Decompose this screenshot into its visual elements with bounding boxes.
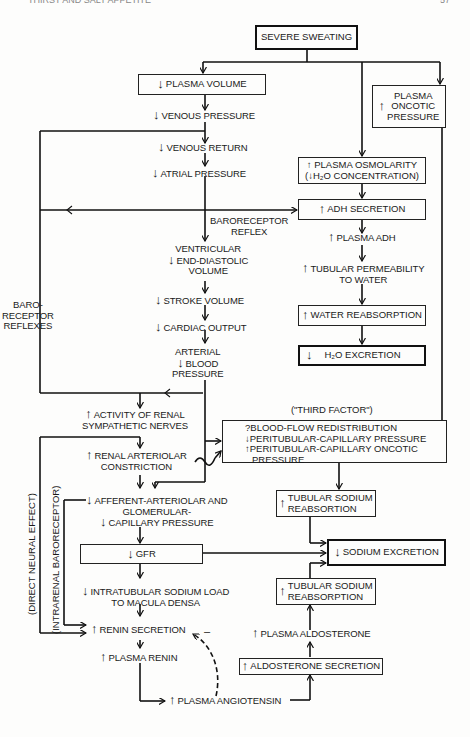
down-arrow-icon: ↓ [86,492,92,507]
up-arrow-icon: ↑ [242,661,249,672]
third-factor-list: ?BLOOD-FLOW REDISTRIBUTION ↓PERITUBULAR-… [245,423,426,465]
up-arrow-icon: ↑ [319,204,326,215]
h2o-excretion-box: ↓H₂O EXCRETION [298,345,426,366]
up-arrow-icon: ↑ [279,498,286,509]
severe-sweating-label: SEVERE SWEATING [261,32,352,43]
down-arrow-icon: ↓ [168,252,174,267]
up-arrow-icon: ↑ [379,101,386,112]
severe-sweating-box: SEVERE SWEATING [255,25,358,50]
third-factor-title: ("THIRD FACTOR") [291,405,373,416]
renal-arteriolar: ↑RENAL ARTERIOLARCONSTRICTION [86,450,187,472]
down-arrow-icon: ↓ [334,547,341,558]
down-arrow-icon: ↓ [153,107,159,122]
down-arrow-icon: ↓ [158,139,164,154]
plasma-aldosterone: ↑PLASMA ALDOSTERONE [252,628,371,640]
up-arrow-icon: ↑ [302,310,309,321]
afferent-arteriolar: ↓AFFERENT-ARTERIOLAR ANDGLOMERULAR-↓CAPI… [86,495,228,529]
water-reabsorption-box: ↑WATER REABSORPTION [298,305,426,326]
tubular-sodium-reab-1-box: ↑TUBULAR SODIUMREABSORTION [276,490,376,517]
third-factor-box: ?BLOOD-FLOW REDISTRIBUTION ↓PERITUBULAR-… [222,420,447,463]
adh-secretion-box: ↑ADH SECRETION [298,199,426,220]
down-arrow-icon: ↓ [155,292,161,307]
tubular-sodium-reab-2-box: ↑TUBULAR SODIUMREABSORPTION [276,578,376,605]
sodium-excretion-box: ↓SODIUM EXCRETION [327,539,446,566]
plasma-osmolarity-box: ↑ PLASMA OSMOLARITY(↓H₂O CONCENTRATION) [298,157,426,184]
up-arrow-icon: ↑ [302,260,308,275]
arterial-bp: ARTERIAL↓BLOODPRESSURE [172,347,223,380]
direct-neural-effect-label: (DIRECT NEURAL EFFECT) [26,493,37,615]
cardiac-output: ↓CARDIAC OUTPUT [155,322,246,334]
renal-sympathetic: ↑ACTIVITY OF RENALSYMPATHETIC NERVES [82,409,188,431]
down-arrow-icon: ↓ [155,319,161,334]
down-arrow-icon: ↓ [306,350,313,361]
ventricular-edv: VENTRICULAR↓END-DIASTOLICVOLUME [168,244,248,277]
negative-feedback-sign: – [204,626,210,637]
plasma-osmolarity-label: ↑ PLASMA OSMOLARITY(↓H₂O CONCENTRATION) [305,160,419,181]
intratubular-sodium: ↓INTRATUBULAR SODIUM LOADTO MACULA DENSA [82,586,229,608]
plasma-oncotic-box: ↑PLASMAONCOTICPRESSURE [372,85,446,128]
down-arrow-icon: ↓ [127,549,134,560]
down-arrow-icon: ↓ [152,165,158,180]
tubular-permeability: ↑TUBULAR PERMEABILITYTO WATER [302,263,425,285]
up-arrow-icon: ↑ [328,229,334,244]
up-arrow-icon: ↑ [91,621,97,636]
stroke-volume: ↓STROKE VOLUME [155,295,244,307]
gfr-box: ↓GFR [80,544,203,564]
third-factor-item: PRESSURE [245,455,426,466]
down-arrow-icon: ↓ [157,79,164,90]
intrarenal-baroreceptor-label: (INTRARENAL BARORECEPTOR) [50,486,61,634]
up-arrow-icon: ↑ [252,625,258,640]
baroreceptor-reflex-label: BARORECEPTORREFLEX [210,216,288,237]
plasma-oncotic-label: PLASMAONCOTICPRESSURE [387,91,439,123]
up-arrow-icon: ↑ [279,586,286,597]
up-arrow-icon: ↑ [100,649,106,664]
down-arrow-icon: ↓ [82,583,88,598]
plasma-renin: ↑PLASMA RENIN [100,652,177,664]
venous-pressure: ↓VENOUS PRESSURE [153,110,255,122]
plasma-volume-label: PLASMA VOLUME [166,79,247,90]
up-arrow-icon: ↑ [169,692,175,707]
down-arrow-icon: ↓ [100,514,106,529]
aldosterone-secretion-box: ↑ALDOSTERONE SECRETION [239,658,383,675]
venous-return: ↓VENOUS RETURN [158,142,247,154]
up-arrow-icon: ↑ [86,447,92,462]
plasma-adh: ↑PLASMA ADH [328,232,396,244]
baroreceptor-reflexes-label: BARO-RECEPTORREFLEXES [2,300,54,332]
plasma-volume-box: ↓PLASMA VOLUME [138,74,266,95]
atrial-pressure: ↓ATRIAL PRESSURE [152,168,246,180]
renin-secretion: ↑RENIN SECRETION [91,624,186,636]
plasma-angiotensin: ↑PLASMA ANGIOTENSIN [169,695,281,707]
